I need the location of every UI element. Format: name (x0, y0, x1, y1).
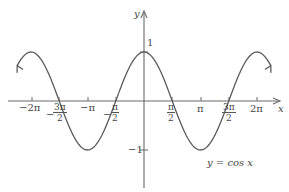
tick-label-neg-2pi: −2π (19, 103, 40, 113)
tick-label-y-1: 1 (147, 38, 153, 48)
tick-label-neg-3pi-over-2: 3π 2 (53, 103, 67, 123)
tick-label-pi: π (197, 104, 204, 114)
x-axis-label: x (278, 104, 284, 114)
y-axis-label: y (134, 9, 140, 19)
curve-arrow-right-icon (265, 66, 271, 73)
curve-annotation: y = cos x (207, 158, 253, 168)
tick-label-pi-over-2: π 2 (167, 103, 175, 123)
tick-label-y-neg-1: −1 (128, 145, 143, 155)
tick-label-neg-pi-over-2: π 2 (111, 103, 119, 123)
tick-label-3pi-over-2: 3π 2 (222, 103, 236, 123)
tick-label-neg-pi: −π (80, 103, 95, 113)
tick-label-2pi: 2π (250, 104, 263, 114)
curve-arrow-left-icon (17, 66, 23, 73)
